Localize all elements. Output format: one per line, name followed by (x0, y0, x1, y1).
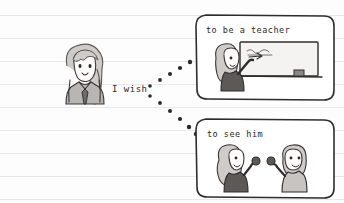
boy-waving-eye-right (298, 157, 301, 160)
boy-waving-eye-left (290, 157, 293, 160)
panel-reunion-caption: to see him (207, 129, 263, 139)
trail-dot (187, 125, 191, 129)
trail-dot (148, 84, 152, 88)
teacher-body (221, 71, 244, 91)
caption-i-wish: I wish (112, 84, 148, 94)
narrator-figure (66, 44, 104, 104)
boy-waving-hand (267, 157, 275, 165)
trail-dot (158, 101, 162, 105)
trail-dot (158, 78, 162, 82)
boy-waving-face (285, 149, 302, 170)
thought-trail-bottom (148, 94, 198, 136)
panel-teacher-caption: to be a teacher (206, 25, 290, 35)
teacher-eye (230, 57, 233, 60)
comic-artwork: I wish to be a teacher (0, 0, 344, 203)
trail-dot (148, 94, 152, 98)
girl-waving-hand (252, 157, 260, 165)
thought-trail-top (148, 60, 192, 88)
trail-dot (188, 60, 192, 64)
boy-waving-body (282, 171, 307, 192)
trail-dot (178, 117, 182, 121)
panel-reunion: to see him (196, 119, 334, 198)
blackboard-ledge (236, 76, 322, 77)
trail-dot (178, 66, 182, 70)
narrator-eye-right (89, 64, 92, 68)
eraser (294, 70, 304, 76)
trail-dot (168, 109, 172, 113)
girl-waving-eye (235, 157, 238, 160)
narrator-eye-left (79, 64, 82, 68)
trail-dot (168, 72, 172, 76)
comic-page: I wish to be a teacher (0, 0, 344, 203)
panel-teacher: to be a teacher (196, 15, 334, 100)
